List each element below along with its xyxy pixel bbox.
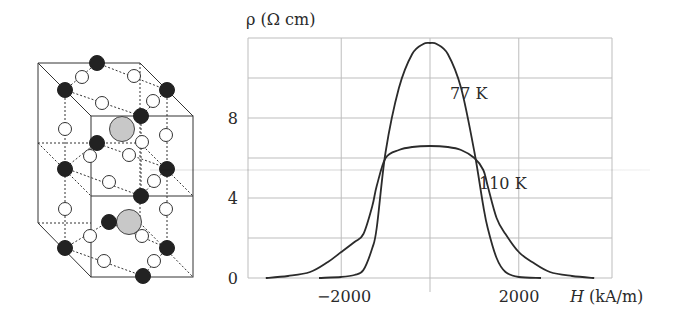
figure-canvas: ρ (Ω cm) 0 4 8 −2000 2000 H (kA/m) 77 K … — [0, 0, 677, 322]
x-tick-neg2000: −2000 — [317, 287, 371, 306]
x-tick-2000: 2000 — [499, 287, 540, 306]
series-label-77k: 77 K — [450, 84, 488, 103]
x-axis-unit: (kA/m) — [584, 287, 643, 306]
resistivity-chart: ρ (Ω cm) 0 4 8 −2000 2000 H (kA/m) 77 K … — [228, 10, 644, 306]
scan-artifact-line — [150, 169, 650, 171]
y-tick-4: 4 — [228, 189, 238, 208]
y-axis-label: ρ (Ω cm) — [246, 10, 315, 29]
x-axis-label: H (kA/m) — [569, 287, 643, 306]
series-label-110k: 110 K — [479, 174, 528, 193]
y-tick-0: 0 — [228, 269, 238, 288]
chart-grid — [248, 38, 612, 292]
y-tick-8: 8 — [228, 109, 238, 128]
figure: ρ (Ω cm) 0 4 8 −2000 2000 H (kA/m) 77 K … — [0, 0, 677, 322]
x-axis-variable: H — [569, 287, 585, 306]
